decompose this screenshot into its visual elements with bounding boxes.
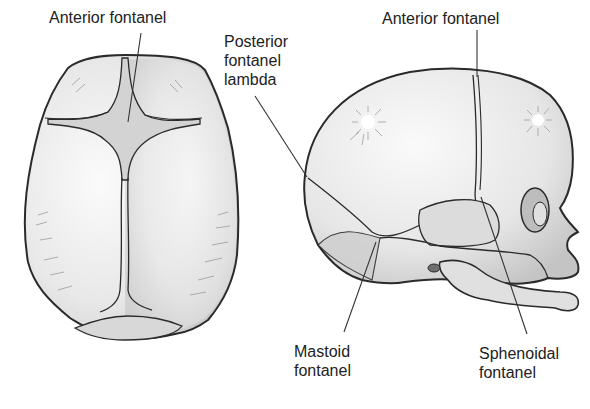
- label-text: fontanel: [294, 361, 351, 380]
- label-text: Mastoid: [294, 342, 351, 361]
- label-mastoid-fontanel: Mastoid fontanel: [294, 342, 351, 380]
- label-anterior-fontanel-side: Anterior fontanel: [382, 9, 499, 28]
- label-anterior-fontanel-top: Anterior fontanel: [49, 8, 166, 27]
- label-posterior-fontanel-lambda: Posterior fontanel lambda: [224, 32, 288, 89]
- temporal-region: [419, 200, 499, 247]
- label-text: Sphenoidal: [479, 344, 559, 363]
- label-text: Posterior: [224, 32, 288, 51]
- skull-side-view: [304, 69, 578, 311]
- label-text: Anterior fontanel: [382, 9, 499, 28]
- leader-posterior: [255, 96, 307, 177]
- label-text: fontanel: [224, 51, 288, 70]
- label-text: Anterior fontanel: [49, 8, 166, 27]
- label-text: fontanel: [479, 363, 559, 382]
- label-sphenoidal-fontanel: Sphenoidal fontanel: [479, 344, 559, 382]
- label-text: lambda: [224, 70, 288, 89]
